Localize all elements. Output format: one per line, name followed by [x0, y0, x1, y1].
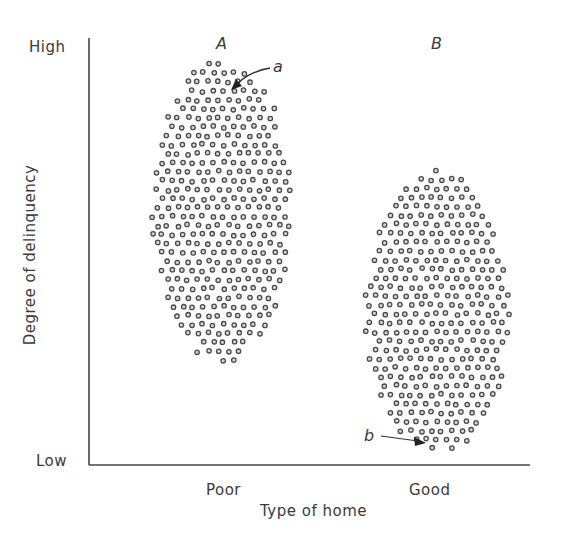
- x-tick-good: Good: [409, 481, 451, 499]
- cluster-b-points: [363, 168, 511, 450]
- delinquency-chart: High Low Degree of delinquency A B a b P…: [0, 0, 565, 544]
- annotation-b-label: b: [364, 426, 375, 445]
- y-low-label: Low: [36, 452, 67, 470]
- x-tick-poor: Poor: [206, 481, 241, 499]
- y-axis-title: Degree of delinquency: [21, 165, 39, 346]
- y-high-label: High: [29, 38, 65, 56]
- cluster-a-points: [150, 61, 292, 363]
- arrow-b-icon: [381, 436, 426, 446]
- group-b-label: B: [431, 34, 442, 53]
- group-a-label: A: [216, 34, 227, 53]
- x-axis-title: Type of home: [260, 502, 367, 520]
- plot-area: [0, 0, 565, 544]
- annotation-a-label: a: [273, 57, 283, 76]
